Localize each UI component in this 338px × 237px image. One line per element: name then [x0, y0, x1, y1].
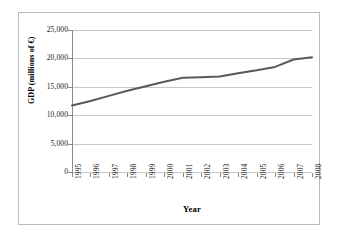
x-tick-mark-1997: [109, 173, 110, 177]
x-tick-label-2004: 2004: [241, 164, 249, 179]
x-tick-label-2008: 2008: [315, 164, 323, 179]
x-tick-mark-2001: [183, 173, 184, 177]
x-tick-label-2003: 2003: [223, 164, 231, 179]
x-tick-label-2001: 2001: [186, 164, 194, 179]
y-tick-label-10000: 10,000: [14, 111, 68, 119]
gridline-25000: [72, 30, 312, 31]
x-tick-mark-2004: [238, 173, 239, 177]
x-tick-mark-1999: [146, 173, 147, 177]
gridline-15000: [72, 87, 312, 88]
y-axis-tick-labels: 25,000 20,000 15,000 10,000 5,000 0: [8, 0, 68, 237]
y-tick-label-5000: 5,000: [14, 140, 68, 148]
y-tick-label-15000: 15,000: [14, 83, 68, 91]
x-tick-label-1996: 1996: [93, 164, 101, 179]
y-axis-spine: [72, 30, 73, 173]
x-tick-mark-2006: [275, 173, 276, 177]
y-tick-mark-15000: [68, 87, 72, 88]
x-tick-label-2002: 2002: [204, 164, 212, 179]
x-tick-mark-2005: [257, 173, 258, 177]
x-tick-mark-1995: [72, 173, 73, 177]
x-tick-label-2005: 2005: [260, 164, 268, 179]
gridline-5000: [72, 144, 312, 145]
gridline-10000: [72, 115, 312, 116]
x-tick-label-1999: 1999: [149, 164, 157, 179]
x-tick-label-1997: 1997: [112, 164, 120, 179]
y-tick-mark-20000: [68, 58, 72, 59]
y-axis-title: GDP (millions of €): [27, 37, 36, 104]
x-tick-mark-2003: [220, 173, 221, 177]
gridline-20000: [72, 58, 312, 59]
y-tick-label-20000: 20,000: [14, 54, 68, 62]
y-tick-label-25000: 25,000: [14, 26, 68, 34]
y-tick-mark-10000: [68, 115, 72, 116]
x-axis-title: Year: [72, 204, 312, 214]
x-tick-label-1995: 1995: [75, 164, 83, 179]
y-tick-mark-25000: [68, 30, 72, 31]
x-tick-label-2007: 2007: [297, 164, 305, 179]
x-tick-mark-2008: [312, 173, 313, 177]
x-tick-label-1998: 1998: [130, 164, 138, 179]
x-tick-mark-2007: [294, 173, 295, 177]
chart-figure: 25,000 20,000 15,000 10,000 5,000 0 1995…: [0, 0, 338, 237]
y-tick-label-0: 0: [14, 168, 68, 176]
x-tick-label-2006: 2006: [278, 164, 286, 179]
plot-area: [72, 30, 312, 172]
y-tick-mark-5000: [68, 144, 72, 145]
x-tick-label-2000: 2000: [167, 164, 175, 179]
